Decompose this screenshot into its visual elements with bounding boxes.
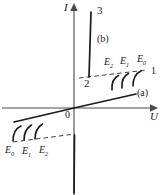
branch-number-2: 2: [84, 78, 90, 89]
lower-field-label-e2: E2: [39, 145, 48, 157]
lower-dashed-guide: [13, 134, 75, 142]
steep-branch-lower: [74, 135, 75, 193]
lower-field-label-e1-sub: 1: [28, 151, 31, 158]
upper-field-label-e2: E2: [104, 57, 113, 69]
lower-hook-curve-e2: [35, 124, 43, 139]
branch-number-1: 1: [151, 66, 156, 76]
upper-field-label-e0-sub: 0: [143, 59, 146, 66]
y-axis-label: I: [64, 2, 68, 13]
upper-hook-curve-e1: [122, 74, 129, 89]
annotation-region-b: (b): [97, 34, 109, 44]
upper-field-label-e1-sub: 1: [126, 61, 129, 68]
lower-field-label-e2-sub: 2: [45, 150, 48, 157]
upper-field-label-e0: E0: [137, 54, 146, 66]
steep-branch-b: [89, 12, 91, 77]
i-axis-arrowhead: [70, 3, 77, 11]
lower-field-label-e1: E1: [22, 146, 31, 158]
branch-number-3: 3: [97, 5, 103, 16]
lower-field-label-e0-sub: 0: [11, 150, 14, 157]
upper-field-label-e2-sub: 2: [110, 62, 113, 69]
upper-field-label-e1: E1: [120, 56, 129, 68]
upper-hook-curve-e2: [112, 76, 119, 91]
lower-hook-curve-e1: [24, 125, 32, 140]
x-axis-label: U: [150, 111, 158, 122]
upper-hook-curve-e0: [133, 71, 141, 86]
axes-group: [2, 3, 158, 195]
origin-label: 0: [65, 110, 70, 120]
lower-field-label-e0: E0: [5, 145, 14, 157]
annotation-region-a: (a): [137, 88, 148, 98]
lower-hook-curve-e0: [13, 126, 21, 141]
iv-characteristic-figure: I U 0 3 2 1 (b) (a) E2 E1 E0 E0 E1 E2: [0, 0, 163, 195]
